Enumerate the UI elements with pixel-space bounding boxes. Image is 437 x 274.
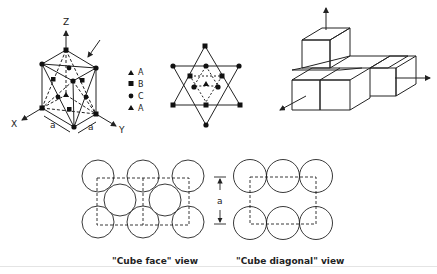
star-projection-atoms [170,44,242,128]
cube-diagonal-view: "Cube diagonal" view [234,160,345,267]
triangle-marker-icon [128,105,134,110]
circle-marker-icon [129,94,134,99]
unit-cell-diagram [22,31,116,133]
axis-label-y: Y [118,125,125,135]
triangle-marker-icon [128,70,134,75]
axis-label-z: Z [63,17,69,27]
legend-label: A [138,104,144,113]
cube-stack-diagram [280,8,430,110]
edge-label-a-left: a [50,120,56,130]
square-marker-icon [129,81,134,86]
caption-cube-face: "Cube face" view [112,256,198,266]
legend: A B C A [128,68,144,113]
divider [0,266,437,267]
legend-label: C [138,92,144,101]
axis-label-x: X [11,119,17,129]
cube-face-view: "Cube face" view [82,160,204,266]
legend-label: B [138,80,144,89]
caption-cube-diagonal: "Cube diagonal" view [236,256,344,266]
fcc-stacking-diagram: Z X Y a a A B C A [0,0,437,274]
edge-label-a-right: a [88,122,94,132]
dimension-label-a: a [217,196,223,206]
legend-label: A [138,68,144,77]
